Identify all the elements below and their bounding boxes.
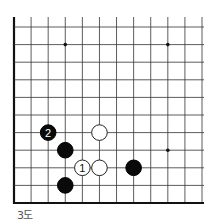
star-point-icon [166,43,170,47]
white-stone-1: 1 [75,160,91,176]
black-stone-2: 2 [40,125,56,141]
white-stone [92,125,108,141]
black-stone [57,178,73,194]
move-number-label: 1 [79,162,85,174]
move-number-label: 2 [45,127,51,139]
black-stone [57,142,73,158]
white-stone [92,160,108,176]
go-board: 21 [0,0,214,206]
stones: 21 [40,125,141,193]
board-grid [13,17,204,204]
star-point-icon [63,43,67,47]
diagram-caption: 3도 [17,209,33,222]
black-stone [126,160,142,176]
star-point-icon [166,148,170,152]
